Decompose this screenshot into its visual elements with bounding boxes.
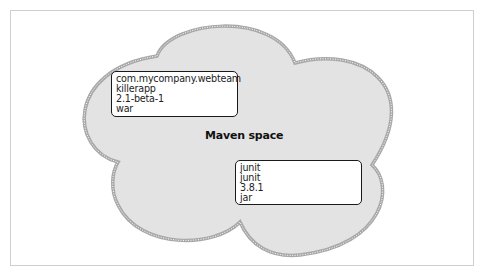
artifact-box-junit: junit junit 3.8.1 jar <box>235 160 362 205</box>
maven-space-label: Maven space <box>205 129 283 142</box>
artifact-box-killerapp: com.mycompany.webteam killerapp 2.1-beta… <box>111 71 238 117</box>
version: 3.8.1 <box>240 183 357 193</box>
version: 2.1-beta-1 <box>116 94 233 104</box>
packaging: jar <box>240 193 357 203</box>
packaging: war <box>116 104 233 114</box>
